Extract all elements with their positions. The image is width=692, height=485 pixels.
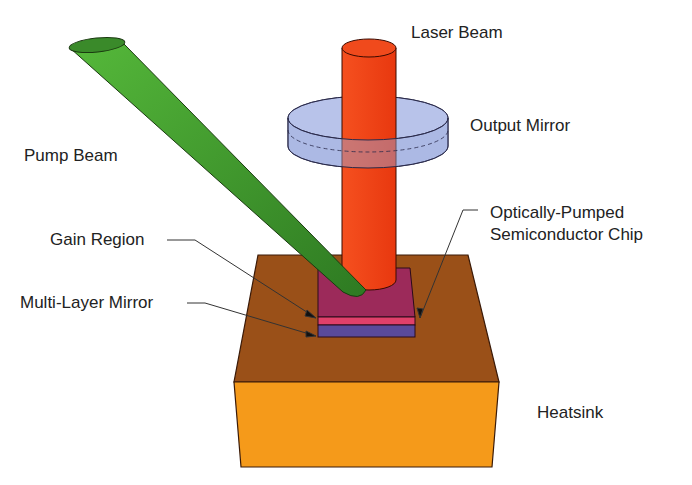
label-laser-beam: Laser Beam — [411, 23, 503, 43]
label-heatsink: Heatsink — [537, 403, 603, 423]
label-multi-layer-mirror: Multi-Layer Mirror — [20, 293, 153, 313]
label-chip-line1: Optically-Pumped — [490, 203, 624, 223]
label-chip-line2: Semiconductor Chip — [490, 225, 643, 245]
label-pump-beam: Pump Beam — [24, 146, 118, 166]
label-output-mirror: Output Mirror — [470, 116, 570, 136]
label-gain-region: Gain Region — [50, 230, 145, 250]
